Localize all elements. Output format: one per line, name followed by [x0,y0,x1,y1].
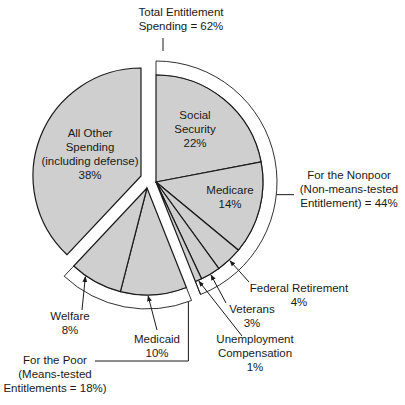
label-unemployment: Unemployment Compensation 1% [205,332,305,374]
label-social-security: Social Security 22% [170,108,220,150]
label-total-entitlement: Total Entitlement Spending = 62% [121,5,241,33]
label-veterans: Veterans 3% [222,302,282,330]
label-nonpoor: For the Nonpoor (Non-means-tested Entitl… [294,168,404,210]
label-welfare: Welfare 8% [45,309,95,337]
label-medicare: Medicare 14% [200,183,260,211]
label-poor: For the Poor (Means-tested Entitlements … [0,353,110,395]
label-medicaid: Medicaid 10% [127,332,187,360]
label-other-spending: All Other Spending (including defense) 3… [38,126,142,182]
